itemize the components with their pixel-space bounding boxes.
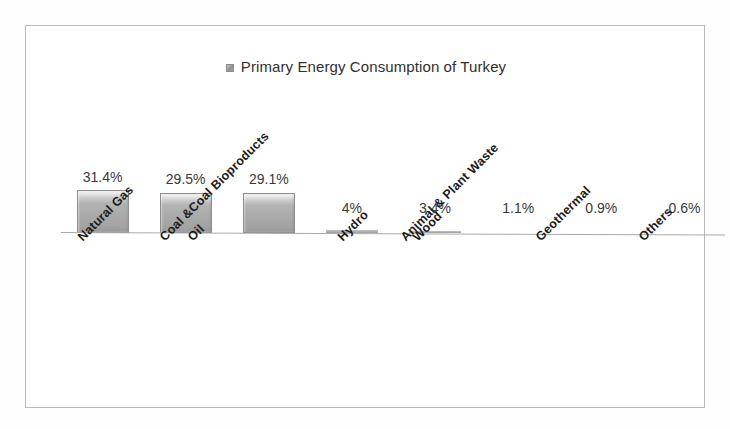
bar-value-label: 29.1% (227, 171, 310, 187)
bar-coal-and-coal-bioproducts (243, 193, 295, 233)
plot-area: 31.4% 29.5% 29.1% (61, 96, 726, 241)
bar-value-label: 4% (310, 200, 393, 216)
series-color-swatch-icon (226, 64, 234, 72)
chart-screenshot: Primary Energy Consumption of Turkey 31.… (0, 0, 730, 429)
bar-value-label: 1.1% (477, 200, 560, 216)
chart-frame: Primary Energy Consumption of Turkey 31.… (25, 25, 705, 408)
bar-slot (227, 193, 310, 233)
page-title: Primary Energy Consumption of Turkey (241, 58, 506, 75)
bar-column: 1.1% (477, 96, 560, 233)
chart-title-row: Primary Energy Consumption of Turkey (26, 58, 706, 75)
category-axis-labels: Natural Gas Oil Coal &Coal Bioproducts H… (61, 234, 726, 354)
bar-column: 0.6% (643, 96, 726, 233)
bar-value-label: 31.4% (61, 169, 144, 185)
bar-series: 31.4% 29.5% 29.1% (61, 96, 726, 233)
bar-column: 4% (310, 96, 393, 233)
